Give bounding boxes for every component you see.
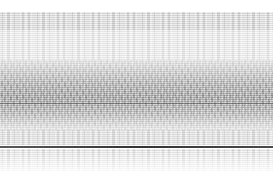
upper-pale-band — [0, 30, 273, 60]
sharp-horizontal-line — [0, 146, 273, 148]
dense-gradient-band — [0, 60, 273, 130]
dark-streak — [0, 103, 273, 104]
top-light-texture-band — [0, 12, 273, 30]
lower-light-band — [0, 130, 273, 145]
noise-texture-canvas — [0, 0, 273, 175]
bottom-fade-band — [0, 149, 273, 171]
